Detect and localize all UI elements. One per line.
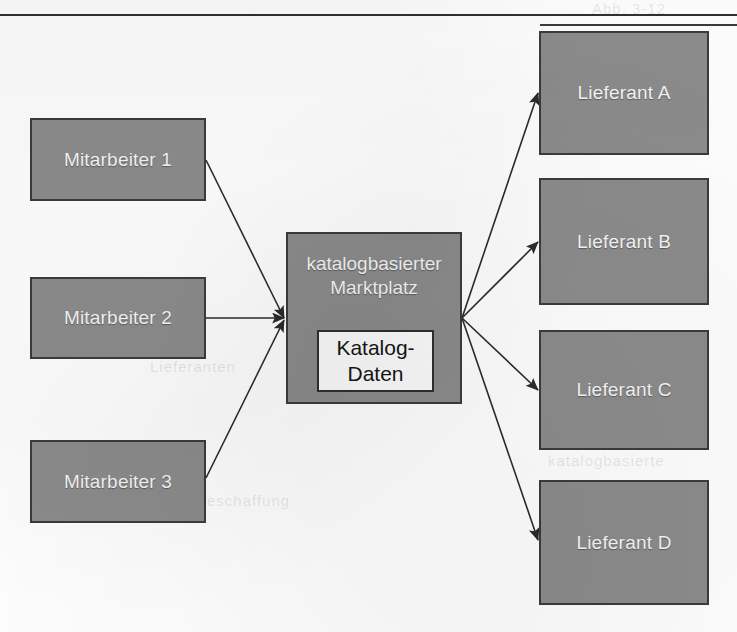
- edge-hub-d: [462, 318, 538, 540]
- node-mitarbeiter-3[interactable]: Mitarbeiter 3: [30, 440, 206, 523]
- node-lieferant-d-label: Lieferant D: [570, 531, 677, 554]
- hub-title-line-2: Marktplatz: [306, 276, 441, 300]
- node-marktplatz-label: katalogbasierterMarktplatz: [306, 252, 441, 300]
- edge-m3-hub: [206, 320, 284, 478]
- node-mitarbeiter-2[interactable]: Mitarbeiter 2: [30, 277, 206, 359]
- node-lieferant-d[interactable]: Lieferant D: [539, 480, 709, 605]
- node-lieferant-c-label: Lieferant C: [570, 378, 677, 401]
- edge-hub-b: [462, 242, 538, 318]
- node-mitarbeiter-1[interactable]: Mitarbeiter 1: [30, 118, 206, 201]
- hub-title-line-1: katalogbasierter: [306, 252, 441, 276]
- node-lieferant-a-label: Lieferant A: [571, 81, 676, 104]
- node-mitarbeiter-1-label: Mitarbeiter 1: [58, 148, 178, 171]
- node-lieferant-b[interactable]: Lieferant B: [539, 178, 709, 305]
- node-lieferant-b-label: Lieferant B: [571, 230, 677, 253]
- katalog-daten-line-1: Katalog-: [336, 335, 414, 361]
- edge-hub-c: [462, 318, 538, 390]
- katalog-daten-label: Katalog-Daten: [336, 335, 414, 386]
- node-lieferant-c[interactable]: Lieferant C: [539, 330, 709, 450]
- node-lieferant-a[interactable]: Lieferant A: [539, 31, 709, 155]
- node-katalog-daten[interactable]: Katalog-Daten: [317, 330, 434, 392]
- edge-hub-a: [462, 93, 538, 318]
- node-mitarbeiter-3-label: Mitarbeiter 3: [58, 470, 178, 493]
- edge-m1-hub: [206, 160, 284, 318]
- node-mitarbeiter-2-label: Mitarbeiter 2: [58, 306, 178, 329]
- katalog-daten-line-2: Daten: [336, 361, 414, 387]
- diagram-page: Abb. 3-12MarktplatzLieferantenkatalogbas…: [0, 0, 737, 632]
